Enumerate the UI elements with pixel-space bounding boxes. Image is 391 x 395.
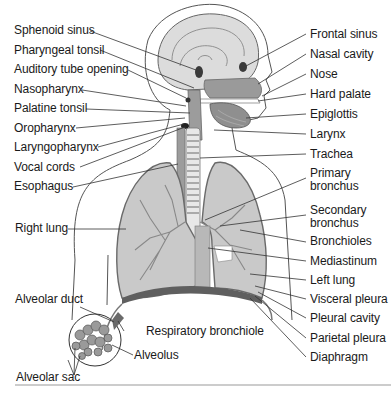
mediastinum [195, 226, 210, 288]
label-epiglottis: Epiglottis [310, 108, 358, 121]
label-nasal-cavity: Nasal cavity [310, 48, 374, 61]
label-visceral-pleura: Visceral pleura [310, 293, 388, 306]
head [158, 14, 262, 140]
label-alveolar-sac: Alveolar sac [16, 371, 80, 384]
label-diaphragm: Diaphragm [310, 351, 368, 364]
label-nose: Nose [310, 68, 338, 81]
label-mediastinum: Mediastinum [310, 255, 377, 268]
label-larynx: Larynx [310, 128, 345, 141]
label-nasopharynx: Nasopharynx [14, 83, 84, 96]
label-respiratory-bronchiole: Respiratory bronchiole [146, 325, 264, 338]
label-bronchioles: Bronchioles [310, 235, 372, 248]
alveoli-inset [69, 312, 124, 366]
label-auditory-tube-opening: Auditory tube opening [14, 63, 129, 76]
label-alveolus: Alveolus [134, 349, 179, 362]
label-laryngopharynx: Laryngopharynx [14, 141, 99, 154]
label-right-lung: Right lung [15, 222, 68, 235]
label-frontal-sinus: Frontal sinus [310, 28, 377, 41]
label-alveolar-duct: Alveolar duct [15, 293, 83, 306]
label-esophagus: Esophagus [14, 180, 73, 193]
label-primary-bronchus: Primary bronchus [310, 167, 359, 193]
label-pleural-cavity: Pleural cavity [310, 312, 380, 325]
label-trachea: Trachea [310, 148, 353, 161]
label-pharyngeal-tonsil: Pharyngeal tonsil [14, 44, 104, 57]
label-parietal-pleura: Parietal pleura [310, 332, 386, 345]
label-left-lung: Left lung [310, 274, 355, 287]
label-palatine-tonsil: Palatine tonsil [14, 102, 87, 115]
label-secondary-bronchus: Secondary bronchus [310, 204, 366, 230]
label-oropharynx: Oropharynx [14, 122, 76, 135]
label-hard-palate: Hard palate [310, 88, 371, 101]
label-vocal-cords: Vocal cords [14, 161, 75, 174]
label-sphenoid-sinus: Sphenoid sinus [14, 24, 95, 37]
